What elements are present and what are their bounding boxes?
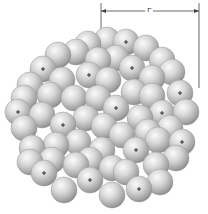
proton (31, 160, 57, 186)
proton (77, 167, 103, 193)
proton (126, 176, 152, 202)
arrowhead-icon (194, 9, 199, 13)
nucleus-diagram: r (0, 0, 208, 214)
nucleons (5, 27, 199, 208)
neutron (99, 182, 125, 208)
neutron (51, 177, 77, 203)
nucleus-illustration (0, 0, 208, 214)
radius-label: r (145, 6, 153, 14)
arrowhead-icon (101, 9, 106, 13)
